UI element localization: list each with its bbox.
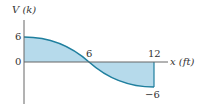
y-axis-label: V (k) xyxy=(12,4,36,15)
negative-shear-area xyxy=(89,62,154,87)
x-tick-6: 6 xyxy=(86,48,92,59)
y-tick-neg6: −6 xyxy=(145,89,160,100)
y-tick-6: 6 xyxy=(15,31,21,42)
x-axis-label: x (ft) xyxy=(170,56,194,67)
positive-shear-area xyxy=(24,37,89,62)
shear-diagram: V (k) 6 0 6 12 x (ft) −6 xyxy=(0,0,203,107)
x-tick-12: 12 xyxy=(148,48,161,59)
chart-plot xyxy=(0,0,203,107)
y-tick-0: 0 xyxy=(15,56,21,67)
